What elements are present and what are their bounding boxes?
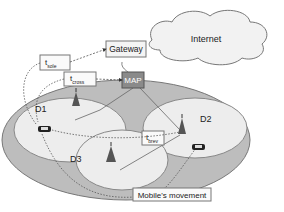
mobile-device-icon (38, 126, 51, 132)
svg-text:Mobile's movement: Mobile's movement (138, 191, 207, 200)
domain-label-d3: D3 (70, 154, 82, 164)
map-node: MAP (122, 72, 144, 88)
internet-label: Internet (191, 34, 222, 44)
timer-t-sole: tsole (40, 55, 70, 70)
timer-t-cross: tcross (64, 72, 96, 86)
mobile-movement-legend: Mobile's movement (133, 188, 211, 201)
svg-text:Gateway: Gateway (109, 44, 143, 54)
internet-cloud: Internet (149, 10, 267, 64)
svg-text:MAP: MAP (124, 76, 141, 85)
gateway-node: Gateway (106, 41, 146, 57)
mobile-device-icon (192, 144, 205, 150)
domain-label-d2: D2 (200, 114, 212, 124)
network-diagram: Internet Gateway MAP tsole tcross tbrev (0, 0, 284, 212)
timer-t-brev: tbrev (142, 131, 164, 145)
domain-label-d1: D1 (35, 104, 47, 114)
